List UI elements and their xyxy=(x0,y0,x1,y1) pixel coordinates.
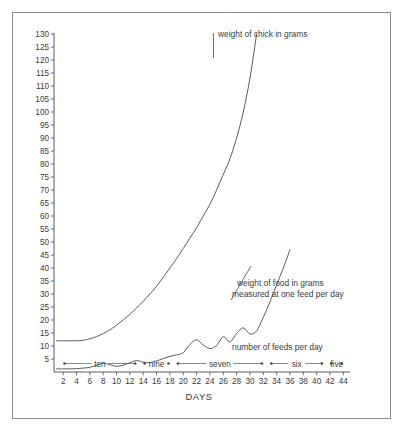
x-tick-label: 34 xyxy=(272,377,282,386)
chart-canvas: 5101520253035404550556065707580859095100… xyxy=(0,0,403,433)
y-tick-label: 85 xyxy=(40,147,50,156)
y-tick-label: 45 xyxy=(40,251,50,260)
x-tick-label: 8 xyxy=(101,377,106,386)
y-tick-label: 30 xyxy=(40,290,50,299)
x-tick-label: 4 xyxy=(74,377,79,386)
x-tick-label: 24 xyxy=(205,377,215,386)
feed-band-end-marker xyxy=(134,362,137,365)
x-tick-label: 22 xyxy=(192,377,202,386)
x-tick-label: 28 xyxy=(232,377,242,386)
y-tick-label: 60 xyxy=(40,212,50,221)
x-tick-label: 12 xyxy=(125,377,135,386)
feed-band-end-marker xyxy=(321,362,324,365)
feeds-per-day-annotation: number of feeds per day xyxy=(232,342,324,352)
x-tick-label: 42 xyxy=(325,377,335,386)
y-tick-label: 20 xyxy=(40,316,50,325)
y-tick-label: 100 xyxy=(35,108,49,117)
x-tick-label: 44 xyxy=(339,377,349,386)
feed-band-end-marker xyxy=(261,362,264,365)
y-tick-label: 65 xyxy=(40,199,50,208)
x-tick-label: 20 xyxy=(179,377,189,386)
y-tick-label: 50 xyxy=(40,238,50,247)
food-weight-annotation-line2: measured at one feed per day xyxy=(232,289,345,299)
y-tick-label: 15 xyxy=(40,329,50,338)
y-tick-label: 40 xyxy=(40,264,50,273)
feed-band-label: seven xyxy=(209,360,231,369)
feed-band-start-marker xyxy=(63,362,66,365)
y-tick-label: 130 xyxy=(35,30,49,39)
y-tick-label: 120 xyxy=(35,56,49,65)
feed-bands: tenninesevensixfive xyxy=(63,360,343,369)
x-tick-label: 16 xyxy=(152,377,162,386)
y-tick-label: 115 xyxy=(36,69,49,78)
y-axis: 5101520253035404550556065707580859095100… xyxy=(35,30,54,372)
y-tick-label: 35 xyxy=(40,277,50,286)
x-tick-label: 14 xyxy=(139,377,149,386)
y-tick-label: 70 xyxy=(40,186,50,195)
y-tick-label: 80 xyxy=(40,160,50,169)
x-tick-label: 36 xyxy=(285,377,295,386)
feed-band-label: five xyxy=(330,360,343,369)
x-tick-label: 40 xyxy=(312,377,322,386)
x-axis: 2468101214161820222426283032343638404244 xyxy=(54,372,350,386)
chick-weight-curve xyxy=(57,34,257,341)
feed-band-start-marker xyxy=(177,362,180,365)
y-tick-label: 5 xyxy=(44,355,49,364)
y-tick-label: 125 xyxy=(35,43,49,52)
feed-band-start-marker xyxy=(270,362,273,365)
x-tick-label: 32 xyxy=(259,377,269,386)
feed-band-end-marker xyxy=(167,362,170,365)
y-tick-label: 75 xyxy=(40,173,50,182)
y-tick-label: 55 xyxy=(40,225,50,234)
figure-root: 5101520253035404550556065707580859095100… xyxy=(0,0,403,433)
y-tick-label: 105 xyxy=(35,95,49,104)
x-axis-title: DAYS xyxy=(186,391,213,402)
x-tick-label: 2 xyxy=(61,377,66,386)
x-tick-label: 38 xyxy=(299,377,309,386)
chart-annotations: weight of chick in gramsweight of food i… xyxy=(214,29,345,352)
feed-band-label: six xyxy=(292,360,302,369)
x-tick-label: 26 xyxy=(219,377,229,386)
y-tick-label: 95 xyxy=(40,121,50,130)
data-curves xyxy=(57,34,290,369)
y-tick-label: 25 xyxy=(40,303,50,312)
x-tick-label: 10 xyxy=(112,377,122,386)
chick-weight-annotation: weight of chick in grams xyxy=(217,29,307,39)
x-tick-label: 18 xyxy=(165,377,175,386)
y-tick-label: 90 xyxy=(40,134,50,143)
y-tick-label: 10 xyxy=(40,342,50,351)
x-tick-label: 6 xyxy=(88,377,93,386)
food-weight-annotation-line1: weight of food in grams xyxy=(236,278,324,288)
y-tick-label: 110 xyxy=(36,82,49,91)
x-tick-label: 30 xyxy=(245,377,255,386)
